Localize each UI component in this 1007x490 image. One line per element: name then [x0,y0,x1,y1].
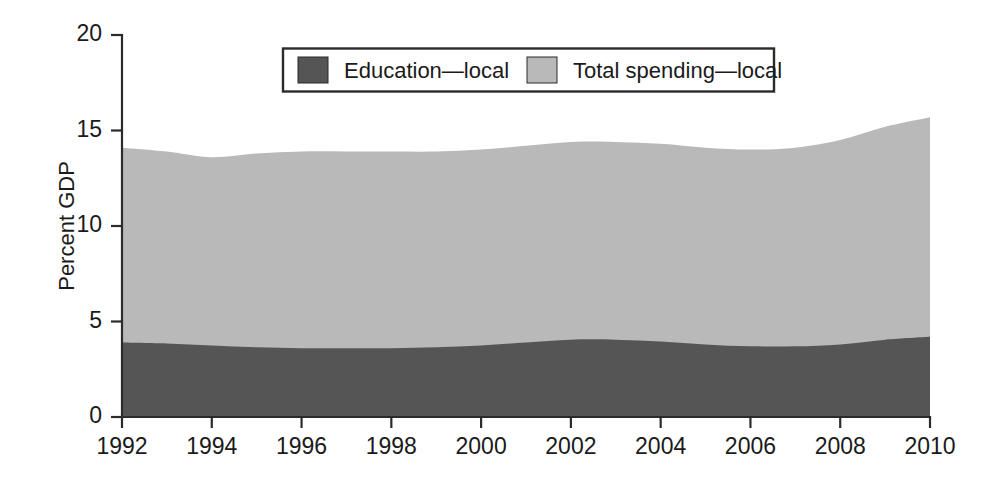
x-tick-label: 2006 [725,433,776,459]
x-tick-label: 1994 [186,433,237,459]
y-axis-ticks: 05101520 [76,20,122,428]
plot-area [122,117,930,417]
legend-swatch-total-spending-local [527,57,557,83]
x-tick-label: 2000 [456,433,507,459]
x-tick-label: 1992 [96,433,147,459]
legend-swatch-education-local [298,57,328,83]
chart-legend: Education—local Total spending—local [283,49,782,92]
area-chart: 05101520 1992199419961998200020022004200… [0,0,1007,490]
y-tick-label: 0 [89,402,102,428]
y-tick-label: 15 [76,116,102,142]
x-tick-label: 2008 [815,433,866,459]
x-axis-ticks: 1992199419961998200020022004200620082010 [96,417,955,459]
y-tick-label: 10 [76,211,102,237]
x-tick-label: 2010 [904,433,955,459]
legend-label-education-local: Education—local [344,58,509,83]
x-tick-label: 2004 [635,433,686,459]
x-tick-label: 2002 [545,433,596,459]
y-tick-label: 20 [76,20,102,46]
y-axis-title: Percent GDP [54,161,79,291]
legend-label-total-spending-local: Total spending—local [573,58,782,83]
x-tick-label: 1996 [276,433,327,459]
chart-figure: 05101520 1992199419961998200020022004200… [0,0,1007,490]
x-tick-label: 1998 [366,433,417,459]
y-tick-label: 5 [89,307,102,333]
area-education-local [122,337,930,417]
